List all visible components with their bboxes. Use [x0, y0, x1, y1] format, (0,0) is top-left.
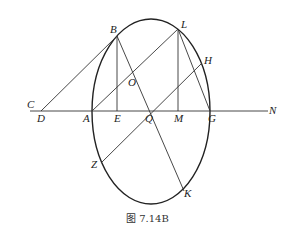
label-m: M — [173, 112, 184, 124]
label-k: K — [183, 187, 192, 199]
label-n: N — [268, 104, 277, 116]
label-e: E — [113, 112, 121, 124]
diagram: B L H O C D A E Q M G N Z K 图 7.14B — [0, 0, 290, 229]
figure-caption: 图 7.14B — [126, 213, 169, 224]
line-lg — [178, 29, 210, 111]
line-al — [92, 29, 178, 111]
label-q: Q — [145, 112, 153, 124]
label-c: C — [27, 98, 35, 110]
label-o: O — [128, 76, 136, 88]
label-d: D — [36, 112, 45, 124]
label-h: H — [203, 54, 213, 66]
label-l: L — [180, 18, 187, 30]
label-g: G — [208, 112, 216, 124]
label-b: B — [110, 23, 117, 35]
label-a: A — [82, 112, 90, 124]
line-db — [41, 36, 117, 111]
label-z: Z — [91, 158, 98, 170]
